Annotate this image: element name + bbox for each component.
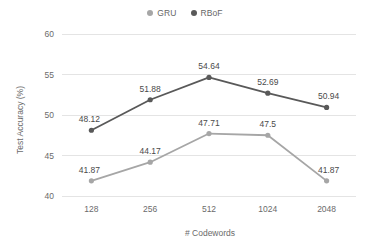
data-point[interactable] (265, 91, 270, 96)
data-label: 47.71 (198, 118, 220, 128)
data-point[interactable] (148, 97, 153, 102)
data-label: 44.17 (140, 146, 162, 156)
data-point[interactable] (89, 178, 94, 183)
y-tick-label: 40 (45, 191, 55, 201)
data-label: 41.87 (318, 165, 340, 175)
line-chart: GRU RBoF Test Accuracy (%) # Codewords 4… (0, 0, 370, 251)
y-tick-label: 45 (45, 151, 55, 161)
y-tick-label: 55 (45, 70, 55, 80)
x-tick-label: 256 (143, 204, 157, 214)
data-point[interactable] (206, 131, 211, 136)
data-point[interactable] (324, 105, 329, 110)
data-label: 48.12 (79, 114, 101, 124)
data-point[interactable] (206, 75, 211, 80)
x-tick-label: 512 (202, 204, 216, 214)
x-tick-label: 1024 (258, 204, 277, 214)
data-label: 51.88 (140, 84, 162, 94)
y-tick-label: 60 (45, 29, 55, 39)
x-tick-label: 2048 (317, 204, 336, 214)
x-tick-label: 128 (84, 204, 98, 214)
data-point[interactable] (265, 133, 270, 138)
data-point[interactable] (324, 178, 329, 183)
data-label: 47.5 (260, 119, 277, 129)
data-point[interactable] (148, 160, 153, 165)
data-label: 52.69 (257, 77, 279, 87)
y-axis-ticks: 4045505560 (45, 29, 55, 201)
data-label: 54.64 (198, 61, 220, 71)
series-layer (89, 75, 329, 184)
plot-area: 4045505560 12825651210242048 41.8744.174… (0, 0, 370, 251)
y-tick-label: 50 (45, 110, 55, 120)
data-label: 50.94 (318, 91, 340, 101)
series-line-gru (91, 134, 326, 181)
data-label: 41.87 (79, 165, 101, 175)
x-axis-ticks: 12825651210242048 (84, 204, 336, 214)
gridlines (62, 34, 356, 196)
data-point[interactable] (89, 128, 94, 133)
